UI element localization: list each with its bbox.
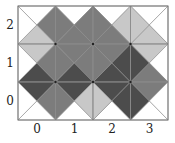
vertex-dot bbox=[129, 81, 131, 83]
vertex-dot bbox=[92, 43, 94, 45]
x-tick-label: 1 bbox=[71, 122, 79, 136]
vertex-dot bbox=[129, 43, 131, 45]
x-tick-label: 2 bbox=[108, 122, 116, 136]
y-axis-labels: 2 1 0 bbox=[6, 18, 14, 108]
vertex-dot bbox=[54, 81, 56, 83]
x-tick-label: 3 bbox=[146, 122, 154, 136]
x-tick-label: 0 bbox=[33, 122, 41, 136]
triangle-tiling-figure: 0 1 2 3 2 1 0 bbox=[0, 0, 175, 143]
y-tick-label: 0 bbox=[6, 94, 14, 108]
y-tick-label: 1 bbox=[6, 56, 14, 70]
x-axis-labels: 0 1 2 3 bbox=[33, 122, 153, 136]
vertex-dot bbox=[92, 81, 94, 83]
vertex-dot bbox=[54, 43, 56, 45]
y-tick-label: 2 bbox=[6, 18, 14, 32]
